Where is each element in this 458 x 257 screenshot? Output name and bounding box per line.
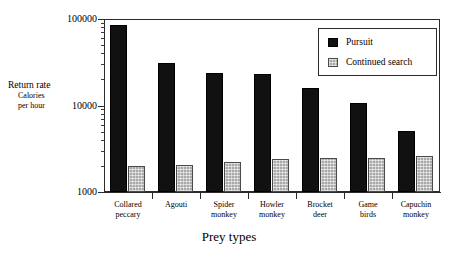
legend-label-continued-search: Continued search — [346, 57, 412, 67]
x-tick — [344, 193, 345, 199]
y-tick-minor — [101, 79, 105, 80]
bar-pursuit — [110, 25, 127, 192]
gray-square-icon — [328, 58, 338, 67]
x-category-label: Brocketdeer — [296, 200, 344, 219]
legend-label-pursuit: Pursuit — [346, 37, 373, 47]
y-tick-minor — [101, 109, 105, 110]
x-category-label: Agouti — [152, 200, 200, 210]
y-tick-minor — [101, 166, 105, 167]
x-tick — [296, 193, 297, 199]
y-tick-minor — [101, 140, 105, 141]
y-tick-minor — [101, 23, 105, 24]
bar-continued-search — [224, 162, 241, 192]
x-cat-label-line: Brocket — [296, 200, 344, 210]
y-tick-minor — [101, 32, 105, 33]
y-tick-minor — [101, 45, 105, 46]
x-category-label: Spidermonkey — [200, 200, 248, 219]
y-tick-minor — [101, 27, 105, 28]
y-tick-minor — [101, 64, 105, 65]
y-tick-major — [98, 106, 105, 107]
bar-continued-search — [128, 166, 145, 192]
y-tick-minor — [101, 151, 105, 152]
legend: Pursuit Continued search — [318, 28, 437, 76]
x-category-label: Gamebirds — [344, 200, 392, 219]
legend-entry-pursuit: Pursuit — [328, 36, 373, 48]
y-tick-minor — [101, 125, 105, 126]
y-tick-label: 100000 — [67, 14, 97, 24]
bar-continued-search — [416, 156, 433, 192]
y-axis-title-sub-line1: Calories — [8, 91, 96, 101]
y-axis-title-main: Return rate — [8, 80, 96, 91]
x-cat-label-line: Agouti — [152, 200, 200, 210]
bar-pursuit — [302, 88, 319, 192]
x-tick — [248, 193, 249, 199]
legend-entry-continued-search: Continued search — [328, 56, 412, 68]
x-tick — [200, 193, 201, 199]
bar-pursuit — [206, 73, 223, 192]
y-axis-title-sub-line2: per hour — [8, 101, 96, 111]
x-tick — [392, 193, 393, 199]
x-cat-label-line: peccary — [104, 210, 152, 220]
x-category-label: Howlermonkey — [248, 200, 296, 219]
x-category-label: Collaredpeccary — [104, 200, 152, 219]
x-category-label: Capuchinmonkey — [392, 200, 440, 219]
x-cat-label-line: Game — [344, 200, 392, 210]
bar-continued-search — [368, 158, 385, 192]
bar-continued-search — [320, 158, 337, 192]
x-axis-line — [104, 192, 441, 193]
y-tick-minor — [101, 132, 105, 133]
bar-pursuit — [158, 63, 175, 192]
x-cat-label-line: monkey — [392, 210, 440, 220]
bar-continued-search — [176, 165, 193, 192]
x-cat-label-line: Howler — [248, 200, 296, 210]
bar-chart: 100000100001000 CollaredpeccaryAgoutiSpi… — [0, 0, 458, 257]
y-axis-title: Return rate Calories per hour — [8, 80, 96, 110]
x-cat-label-line: deer — [296, 210, 344, 220]
y-tick-minor — [101, 119, 105, 120]
x-cat-label-line: birds — [344, 210, 392, 220]
black-square-icon — [328, 38, 338, 47]
bar-pursuit — [398, 131, 415, 192]
y-tick-minor — [101, 53, 105, 54]
y-tick-minor — [101, 114, 105, 115]
bar-pursuit — [254, 74, 271, 192]
y-tick-label: 1000 — [77, 187, 97, 197]
x-axis-title: Prey types — [0, 229, 458, 244]
bar-pursuit — [350, 103, 367, 192]
x-cat-label-line: Capuchin — [392, 200, 440, 210]
x-cat-label-line: Spider — [200, 200, 248, 210]
x-cat-label-line: monkey — [248, 210, 296, 220]
y-tick-minor — [101, 38, 105, 39]
x-cat-label-line: monkey — [200, 210, 248, 220]
x-tick — [152, 193, 153, 199]
x-cat-label-line: Collared — [104, 200, 152, 210]
y-tick-major — [98, 192, 105, 193]
y-tick-major — [98, 19, 105, 20]
bar-continued-search — [272, 159, 289, 192]
